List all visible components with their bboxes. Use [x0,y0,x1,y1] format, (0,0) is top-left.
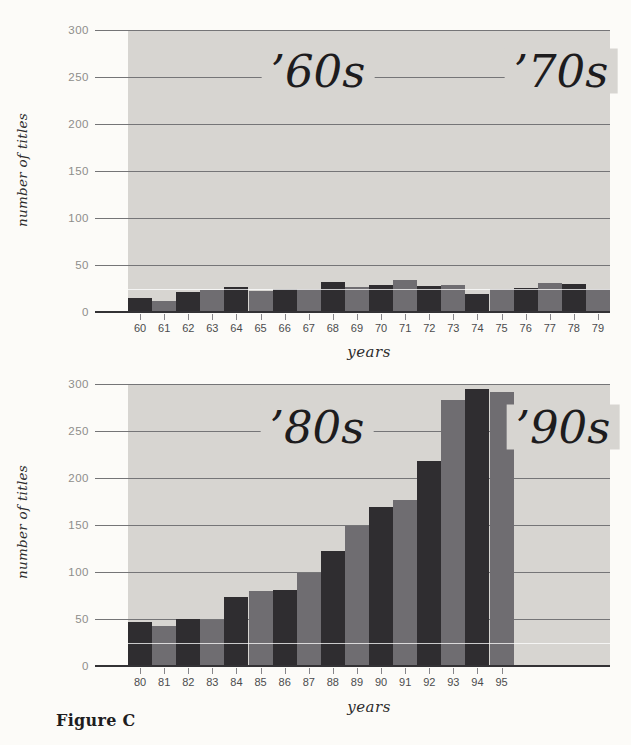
x-tick-label-93: 93 [440,676,466,688]
x-tick-label-66: 66 [272,322,298,334]
scanned-figure-page: number of titles 05010015020025030060616… [0,0,631,745]
x-tick-label-85: 85 [248,676,274,688]
gridline-150 [95,171,610,172]
x-tick-65 [261,314,262,320]
bar-68 [321,282,345,312]
y-tick-label-250: 250 [47,425,89,437]
bar-71 [393,280,417,312]
gridline-100 [95,218,610,219]
x-tick-68 [333,314,334,320]
x-tick-81 [164,668,165,674]
x-tick-75 [502,314,503,320]
x-tick-60 [140,314,141,320]
x-tick-label-91: 91 [392,676,418,688]
bar-76 [514,288,538,312]
x-tick-label-89: 89 [344,676,370,688]
y-tick-label-200: 200 [47,472,89,484]
bar-62 [176,292,200,312]
x-tick-label-61: 61 [151,322,177,334]
bar-79 [586,289,610,313]
bar-89 [345,526,369,666]
x-tick-83 [212,668,213,674]
x-tick-label-68: 68 [320,322,346,334]
x-tick-78 [574,314,575,320]
y-tick-label-150: 150 [47,165,89,177]
bar-75 [490,289,514,313]
x-tick-label-81: 81 [151,676,177,688]
gridline-300 [95,30,610,31]
x-tick-79 [598,314,599,320]
y-tick-label-100: 100 [47,212,89,224]
y-tick-label-150: 150 [47,519,89,531]
x-tick-label-67: 67 [296,322,322,334]
x-tick-74 [477,314,478,320]
x-tick-73 [453,314,454,320]
bar-72 [417,286,441,312]
x-tick-label-74: 74 [464,322,490,334]
x-tick-label-79: 79 [585,322,611,334]
figure-caption: Figure C [56,711,136,730]
x-tick-label-83: 83 [199,676,225,688]
bar-87 [297,573,321,666]
bar-94 [465,389,489,666]
x-tick-77 [550,314,551,320]
x-tick-64 [236,314,237,320]
bar-86 [273,590,297,666]
x-tick-label-88: 88 [320,676,346,688]
decade-label-70s: ’70s [505,49,618,94]
bar-60 [128,298,152,312]
x-axis-title: years [347,698,391,716]
x-tick-70 [381,314,382,320]
gridline-200 [95,124,610,125]
x-tick-label-82: 82 [175,676,201,688]
x-tick-label-90: 90 [368,676,394,688]
x-tick-label-63: 63 [199,322,225,334]
bar-85 [249,591,273,666]
x-tick-label-76: 76 [513,322,539,334]
x-axis-title: years [347,343,391,361]
bar-93 [441,400,465,666]
gridline-0 [95,665,610,667]
x-tick-88 [333,668,334,674]
x-tick-62 [188,314,189,320]
x-tick-69 [357,314,358,320]
x-tick-84 [236,668,237,674]
x-tick-label-71: 71 [392,322,418,334]
gridline-200 [95,478,610,479]
y-tick-label-100: 100 [47,566,89,578]
x-tick-label-80: 80 [127,676,153,688]
decade-label-80s: ’80s [261,405,374,450]
x-tick-label-65: 65 [248,322,274,334]
x-tick-label-95: 95 [489,676,515,688]
x-tick-89 [357,668,358,674]
x-tick-66 [285,314,286,320]
bar-81 [152,626,176,666]
x-tick-94 [477,668,478,674]
x-tick-label-87: 87 [296,676,322,688]
bar-63 [200,290,224,312]
x-tick-label-78: 78 [561,322,587,334]
x-tick-label-75: 75 [489,322,515,334]
x-tick-label-70: 70 [368,322,394,334]
x-tick-label-72: 72 [416,322,442,334]
bar-84 [224,597,248,666]
x-tick-label-86: 86 [272,676,298,688]
x-tick-72 [429,314,430,320]
x-tick-85 [261,668,262,674]
decade-label-60s: ’60s [262,49,375,94]
bar-69 [345,287,369,312]
decade-label-90s: ’90s [507,405,620,450]
x-tick-86 [285,668,286,674]
x-tick-label-69: 69 [344,322,370,334]
minor-line-25 [128,643,610,644]
bar-92 [417,461,441,666]
y-tick-label-300: 300 [47,378,89,390]
x-tick-61 [164,314,165,320]
bar-67 [297,289,321,313]
y-tick-label-50: 50 [47,259,89,271]
x-tick-71 [405,314,406,320]
gridline-300 [95,384,610,385]
x-tick-label-94: 94 [464,676,490,688]
x-tick-80 [140,668,141,674]
y-tick-label-0: 0 [47,306,89,318]
